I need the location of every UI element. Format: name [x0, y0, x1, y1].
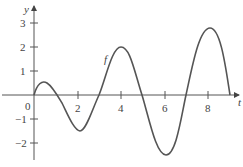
- t-axis-label: t: [238, 96, 242, 108]
- x-tick-label-2: 2: [75, 102, 81, 114]
- y-axis-label: y: [23, 3, 29, 15]
- origin-label: 0: [25, 100, 31, 112]
- curve-label-f: f: [104, 53, 109, 65]
- curve-f: [34, 28, 230, 155]
- y-tick-label-1: 1: [20, 65, 26, 77]
- graph: 0 2 4 6 8 3 2 1 −1 −2 y t f: [0, 0, 243, 167]
- x-tick-label-8: 8: [205, 102, 211, 114]
- x-tick-label-4: 4: [118, 102, 124, 114]
- y-tick-label-3: 3: [20, 17, 26, 29]
- y-tick-label-2: 2: [20, 41, 26, 53]
- x-tick-label-6: 6: [162, 102, 168, 114]
- y-tick-label-neg1: −1: [15, 113, 27, 125]
- y-tick-label-neg2: −2: [15, 137, 27, 149]
